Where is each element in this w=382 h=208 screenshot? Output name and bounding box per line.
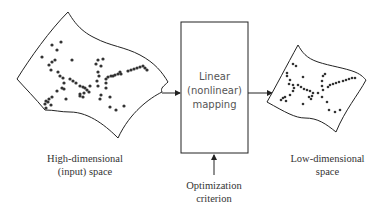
input-space-label-line2: (input) space	[30, 165, 140, 178]
output-space-label-line1: Low-dimensional	[280, 152, 375, 165]
criterion-label: Optimization criterion	[169, 179, 259, 205]
criterion-label-line1: Optimization	[169, 179, 259, 192]
input-space-label-line1: High-dimensional	[30, 152, 140, 165]
mapping-label-line2: (nonlinear)	[181, 84, 248, 98]
mapping-label-line3: mapping	[181, 98, 248, 112]
mapping-label-line1: Linear	[181, 70, 248, 84]
output-space-label: Low-dimensional space	[280, 152, 375, 178]
mapping-label: Linear (nonlinear) mapping	[181, 70, 248, 112]
input-space-label: High-dimensional (input) space	[30, 152, 140, 178]
high-dimensional-space-sheet	[17, 12, 168, 138]
output-space-label-line2: space	[280, 165, 375, 178]
low-dimensional-space-sheet	[267, 45, 366, 132]
criterion-label-line2: criterion	[169, 192, 259, 205]
